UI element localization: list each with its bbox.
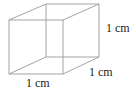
width-label: 1 cm <box>26 77 50 89</box>
top-right-depth-edge <box>63 4 99 20</box>
cube-diagram <box>0 0 136 92</box>
height-label: 1 cm <box>106 22 130 34</box>
depth-label: 1 cm <box>89 66 113 78</box>
bottom-left-depth-edge <box>9 57 46 74</box>
top-left-depth-edge <box>9 4 46 20</box>
front-face <box>9 20 63 74</box>
